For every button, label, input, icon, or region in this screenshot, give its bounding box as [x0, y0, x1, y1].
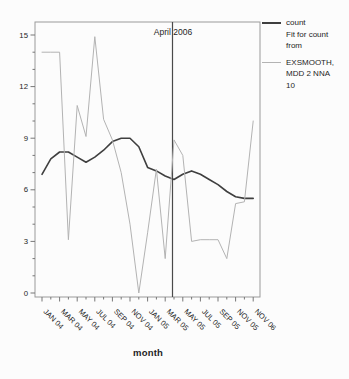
legend-label: EXSMOOTH, — [286, 57, 334, 69]
timeseries-chart: 03691215JAN 04MAR 04MAY 04JUL 04SEP 04NO… — [0, 0, 349, 379]
y-tick-label: 6 — [24, 185, 28, 194]
y-tick-label: 9 — [24, 134, 28, 143]
legend: countFit for countfromEXSMOOTH,MDD 2 NNA… — [262, 17, 348, 91]
legend-line-swatch — [262, 62, 281, 63]
legend-row: MDD 2 NNA — [262, 68, 348, 80]
x-axis-title: month — [133, 347, 163, 358]
y-tick-label: 3 — [24, 237, 28, 246]
count-series-line — [42, 138, 253, 198]
fit-series-line — [42, 37, 253, 293]
y-tick-label: 0 — [24, 289, 29, 298]
legend-row: count — [262, 17, 348, 29]
legend-label: MDD 2 NNA — [286, 68, 330, 80]
legend-row: Fit for count — [262, 29, 348, 41]
legend-line-swatch — [262, 22, 281, 24]
plot-frame — [35, 22, 260, 297]
legend-label: count — [286, 17, 306, 29]
y-tick-label: 15 — [19, 31, 28, 40]
reference-line-label: April 2006 — [154, 27, 192, 37]
legend-row: 10 — [262, 80, 348, 92]
legend-label: 10 — [286, 80, 295, 92]
y-tick-label: 12 — [19, 82, 28, 91]
legend-label: from — [286, 40, 302, 52]
legend-label: Fit for count — [286, 29, 328, 41]
legend-row: from — [262, 40, 348, 52]
legend-row: EXSMOOTH, — [262, 57, 348, 69]
